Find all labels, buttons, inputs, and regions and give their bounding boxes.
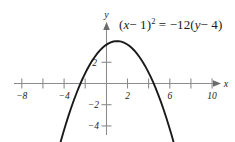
equation-annotation: (x− 1)2 = −12(y− 4) [119,17,222,33]
y-tick-label--2: −2 [88,100,99,110]
x-tick-label--8: −8 [16,91,27,101]
x-tick-label-10: 10 [207,91,217,101]
equation-equals: = [156,17,170,32]
equation-minus-one: − 1 [129,17,146,32]
y-tick-label--4: −4 [88,121,99,131]
equation-rhs-close: ) [218,17,222,32]
x-axis-arrowhead [213,80,221,87]
y-axis-arrowhead [103,22,110,30]
x-tick-label-2: 2 [125,91,130,101]
y-tick-label-2: 2 [92,58,97,68]
x-tick-label--4: −4 [59,91,70,101]
x-tick-label-6: 6 [167,91,172,101]
parabola-curve [21,41,211,142]
x-axis-name: x [223,78,229,89]
parabola-figure: −8 −4 2 6 10 2 −2 −4 x y (x− 1)2 = −12(y… [0,0,235,142]
y-axis-name: y [103,9,109,20]
equation-minus-four: − 4 [201,17,218,32]
equation-rhs-coefficient: −12( [170,17,195,32]
